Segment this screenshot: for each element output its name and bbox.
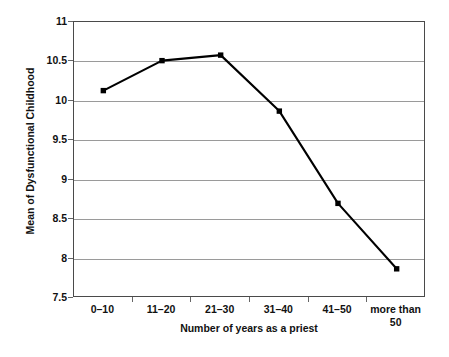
y-tick-label: 8.5 [27,212,67,224]
y-tick-label: 9 [27,173,67,185]
x-tick-mark [308,297,309,302]
x-tick-mark [190,297,191,302]
data-point-marker [277,108,282,113]
x-axis-tick-marks [73,297,425,302]
x-tick-mark [132,297,133,302]
x-tick-mark [366,297,367,302]
x-axis-title: Number of years as a priest [73,322,425,334]
x-tick-mark [249,297,250,302]
chart-figure: Mean of Dysfunctional Childhood 7.588.59… [0,0,449,357]
series-markers [101,52,400,271]
data-point-marker [101,88,106,93]
data-point-marker [394,266,399,271]
data-point-marker [159,58,164,63]
y-tick-label: 7.5 [27,291,67,303]
y-tick-label: 10.5 [27,54,67,66]
data-point-marker [335,201,340,206]
y-axis-tick-labels: 7.588.599.51010.511 [22,21,67,297]
data-series-line [74,22,426,298]
y-tick-label: 11 [27,15,67,27]
data-point-marker [218,52,223,57]
plot-area [73,21,425,297]
y-tick-label: 9.5 [27,133,67,145]
y-tick-label: 10 [27,94,67,106]
series-polyline [103,55,396,269]
y-tick-label: 8 [27,252,67,264]
